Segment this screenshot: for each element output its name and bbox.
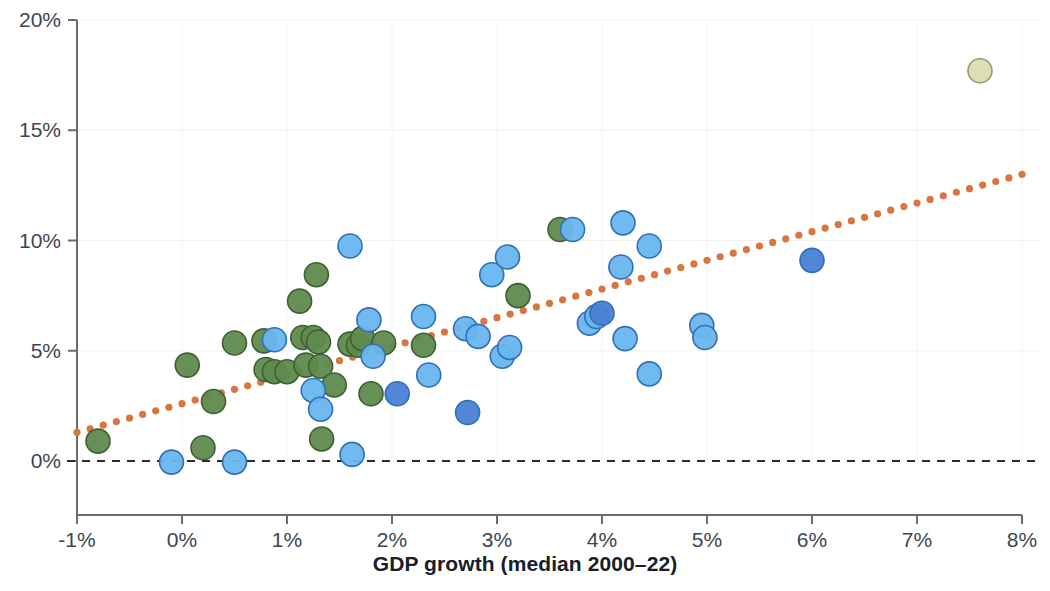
data-point — [637, 362, 661, 386]
x-axis-tick-label: 3% — [482, 528, 512, 552]
trendline-dot — [139, 411, 146, 418]
trendline-dot — [1018, 171, 1025, 178]
trendline-dot — [336, 357, 343, 364]
trendline-dot — [874, 210, 881, 217]
trendline-dot — [992, 178, 999, 185]
data-point — [412, 333, 436, 357]
data-point — [590, 301, 614, 325]
data-points — [86, 59, 992, 474]
data-point — [466, 324, 490, 348]
data-point — [611, 211, 635, 235]
data-point — [609, 255, 633, 279]
trendline-dot — [848, 217, 855, 224]
data-point — [613, 327, 637, 351]
trendline-dot — [900, 203, 907, 210]
data-point — [693, 326, 717, 350]
trendline-dot — [73, 429, 80, 436]
trendline-dot — [651, 271, 658, 278]
data-point — [191, 436, 215, 460]
data-point — [262, 328, 286, 352]
trendline-dot — [769, 239, 776, 246]
trendline-dot — [953, 189, 960, 196]
trendline-dot — [192, 396, 199, 403]
trendline-dot — [913, 199, 920, 206]
y-axis-tick-label: 10% — [0, 229, 61, 253]
y-axis-tick-label: 15% — [0, 118, 61, 142]
data-point — [968, 59, 992, 83]
data-point — [338, 234, 362, 258]
trendline-dot — [559, 296, 566, 303]
trendline-dot — [743, 246, 750, 253]
trendline-dot — [441, 328, 448, 335]
data-point — [288, 289, 312, 313]
trendline-dot — [782, 235, 789, 242]
trendline-dot — [100, 422, 107, 429]
trendline-dot — [126, 414, 133, 421]
data-point — [506, 284, 530, 308]
trendline-dot — [1005, 174, 1012, 181]
trendline-dot — [717, 253, 724, 260]
data-point — [322, 373, 346, 397]
trendline-dot — [808, 228, 815, 235]
trendline-dot — [178, 400, 185, 407]
trendline-dot — [244, 382, 251, 389]
trendline-dot — [638, 275, 645, 282]
trendline-dot — [533, 303, 540, 310]
data-point — [385, 382, 409, 406]
data-point — [307, 330, 331, 354]
trendline-dot — [113, 418, 120, 425]
trendline-dot — [927, 196, 934, 203]
data-point — [456, 400, 480, 424]
data-point — [340, 442, 364, 466]
data-point — [637, 234, 661, 258]
trendline-dot — [703, 257, 710, 264]
trendline-dot — [165, 404, 172, 411]
data-point — [160, 450, 184, 474]
trendline-dot — [966, 185, 973, 192]
trendline-dot — [835, 221, 842, 228]
scatter-chart: 0%5%10%15%20% -1%0%1%2%3%4%5%6%7%8% GDP … — [0, 0, 1050, 591]
trendline-dot — [152, 407, 159, 414]
plot-area — [0, 0, 1050, 591]
trendline-dot — [795, 232, 802, 239]
trendline-dot — [625, 278, 632, 285]
data-point — [223, 331, 247, 355]
trendline-dot — [572, 293, 579, 300]
trendline-dot — [822, 224, 829, 231]
data-point — [357, 308, 381, 332]
data-point — [309, 397, 333, 421]
trendline-dot — [664, 267, 671, 274]
x-axis-tick-label: 6% — [797, 528, 827, 552]
trendline-dot — [231, 386, 238, 393]
trendline-dot — [887, 207, 894, 214]
x-axis-tick-label: 4% — [587, 528, 617, 552]
data-point — [800, 248, 824, 272]
trendline-dot — [730, 250, 737, 257]
trendline-dot — [546, 300, 553, 307]
series-khaki — [968, 59, 992, 83]
trendline-dot — [585, 289, 592, 296]
data-point — [496, 245, 520, 269]
trendline-dot — [598, 285, 605, 292]
data-point — [202, 389, 226, 413]
data-point — [359, 382, 383, 406]
trendline-dot — [480, 318, 487, 325]
data-point — [412, 305, 436, 329]
x-axis-tick-label: 1% — [272, 528, 302, 552]
trendline-dot — [612, 282, 619, 289]
trendline-dot — [493, 314, 500, 321]
data-point — [498, 335, 522, 359]
data-point — [561, 217, 585, 241]
trendline-dot — [979, 181, 986, 188]
x-axis-tick-label: 0% — [167, 528, 197, 552]
trendline-dot — [756, 242, 763, 249]
data-point — [417, 363, 441, 387]
y-axis-tick-label: 5% — [0, 339, 61, 363]
trendline-dot — [507, 310, 514, 317]
x-axis-tick-label: 2% — [377, 528, 407, 552]
trendline-dot — [940, 192, 947, 199]
x-axis-tick-label: 5% — [692, 528, 722, 552]
data-point — [361, 344, 385, 368]
x-axis-title: GDP growth (median 2000–22) — [0, 552, 1050, 576]
x-axis-tick-label: 7% — [902, 528, 932, 552]
